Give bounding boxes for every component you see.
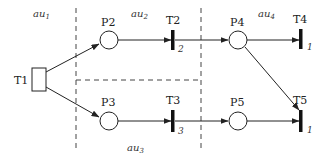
zone-label-au3: au3 — [127, 142, 144, 155]
place-p3-label: P3 — [101, 96, 115, 109]
place-p2-label: P2 — [101, 16, 115, 29]
arc-p4-t5 — [245, 47, 299, 110]
place-p5-label: P5 — [230, 96, 244, 109]
zone-label-au4: au4 — [258, 8, 275, 21]
place-p2 — [100, 31, 118, 49]
place-p4-label: P4 — [230, 16, 244, 29]
transition-t3-bar — [171, 110, 175, 132]
transition-t4-delay: 1 — [307, 42, 313, 52]
arc-t1-p3 — [46, 87, 99, 117]
transition-t5-delay: 1 — [307, 125, 313, 135]
transition-t2-label: T2 — [166, 14, 180, 27]
transition-t3-label: T3 — [166, 94, 180, 107]
place-p3 — [100, 112, 118, 130]
transition-t3-delay: 3 — [178, 126, 184, 136]
transition-t5-label: T5 — [293, 94, 307, 107]
arcs — [46, 40, 299, 121]
place-p4 — [229, 31, 247, 49]
place-p5 — [229, 112, 247, 130]
transition-t1-label: T1 — [14, 74, 28, 87]
arc-t1-p2 — [46, 44, 99, 72]
transition-t2-bar — [171, 30, 175, 50]
petri-net-diagram: au1 au2 au3 au4 T1 P2 P3 P4 P5 T2 — [0, 0, 327, 161]
transition-t5-bar — [299, 110, 303, 132]
transition-t1-box — [32, 68, 46, 91]
transition-t4-bar — [299, 29, 303, 49]
zone-label-au1: au1 — [33, 8, 50, 21]
transition-t4-label: T4 — [293, 13, 307, 26]
transition-t2-delay: 2 — [177, 44, 184, 54]
zone-label-au2: au2 — [131, 8, 148, 21]
